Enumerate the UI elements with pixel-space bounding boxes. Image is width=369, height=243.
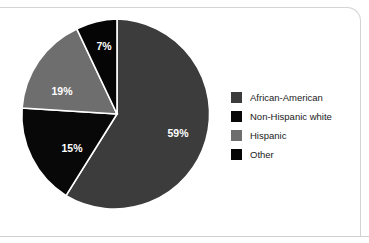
legend: African-American Non-Hispanic white Hisp… xyxy=(231,88,357,164)
pie-chart: 59% 15% 19% 7% African-American Non-Hisp… xyxy=(0,0,369,243)
legend-item-non-hispanic-white[interactable]: Non-Hispanic white xyxy=(231,107,357,126)
pie-label-african-american: 59% xyxy=(167,127,189,139)
legend-label-non-hispanic-white: Non-Hispanic white xyxy=(250,111,332,122)
legend-swatch-icon-other xyxy=(231,149,242,160)
legend-label-african-american: African-American xyxy=(250,92,323,103)
legend-item-african-american[interactable]: African-American xyxy=(231,88,357,107)
pie-label-non-hispanic-white: 15% xyxy=(61,142,83,154)
legend-label-other: Other xyxy=(250,149,274,160)
legend-item-hispanic[interactable]: Hispanic xyxy=(231,126,357,145)
legend-item-other[interactable]: Other xyxy=(231,145,357,164)
pie-label-other: 7% xyxy=(96,40,112,52)
legend-swatch-icon-hispanic xyxy=(231,130,242,141)
legend-swatch-icon-african-american xyxy=(231,92,242,103)
pie-label-hispanic: 19% xyxy=(51,85,73,97)
legend-label-hispanic: Hispanic xyxy=(250,130,286,141)
legend-swatch-icon-non-hispanic-white xyxy=(231,111,242,122)
